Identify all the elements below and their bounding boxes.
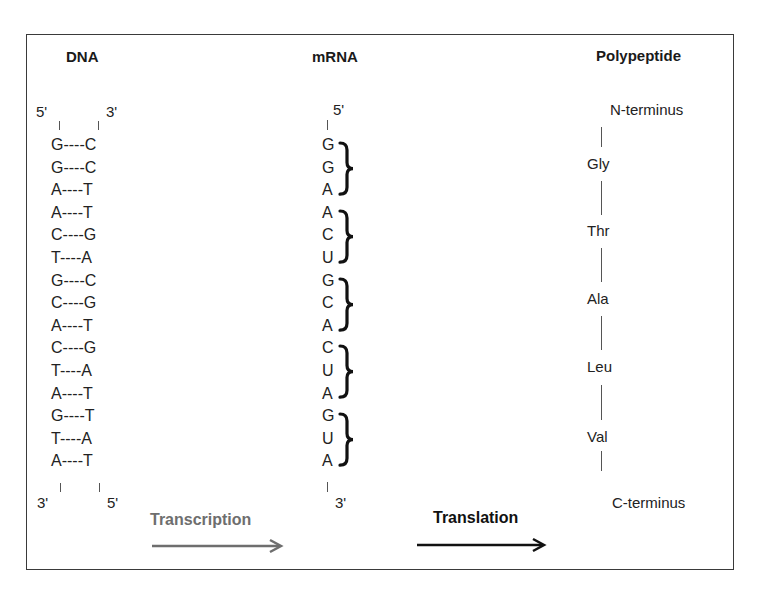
mrna-base: C — [322, 227, 334, 243]
transcription-arrow-icon — [150, 538, 286, 554]
transcription-label: Transcription — [150, 511, 251, 529]
dna-bottom-left-tick — [60, 483, 61, 492]
amino-acid-residue: Gly — [587, 155, 610, 172]
mrna-top-tick — [327, 120, 328, 130]
dna-base-pair: C----G — [51, 227, 96, 243]
peptide-bond-line — [601, 181, 602, 215]
peptide-bond-line — [601, 127, 602, 147]
amino-acid-residue: Ala — [587, 290, 609, 307]
dna-base-pair: A----T — [51, 182, 93, 198]
mrna-base: G — [322, 137, 334, 153]
codon-brace-icon — [338, 411, 358, 468]
peptide-bond-line — [601, 385, 602, 420]
translation-arrow-icon — [415, 537, 551, 553]
dna-base-pair: T----A — [51, 431, 92, 447]
dna-top-left-tick — [59, 121, 60, 130]
dna-bottom-right-tick — [99, 483, 100, 492]
translation-label: Translation — [433, 509, 518, 527]
amino-acid-residue: Leu — [587, 358, 612, 375]
mrna-header: mRNA — [312, 48, 358, 65]
amino-acid-residue: Val — [587, 428, 608, 445]
dna-base-pair: G----C — [51, 160, 96, 176]
mrna-3prime-end: 3' — [335, 494, 346, 511]
dna-header: DNA — [66, 48, 99, 65]
mrna-base: U — [322, 431, 334, 447]
dna-top-right-end: 3' — [106, 103, 117, 120]
n-terminus-label: N-terminus — [610, 101, 683, 118]
codon-brace-icon — [338, 276, 358, 333]
codon-brace-icon — [338, 140, 358, 197]
dna-bottom-left-end: 3' — [37, 494, 48, 511]
dna-base-pair: G----C — [51, 137, 96, 153]
mrna-base: C — [322, 295, 334, 311]
mrna-base: A — [322, 318, 333, 334]
mrna-base: C — [322, 340, 334, 356]
mrna-base: U — [322, 363, 334, 379]
mrna-bottom-tick — [327, 482, 328, 492]
mrna-base: A — [322, 453, 333, 469]
mrna-base: A — [322, 205, 333, 221]
mrna-base: G — [322, 160, 334, 176]
mrna-base: G — [322, 273, 334, 289]
mrna-base: G — [322, 408, 334, 424]
dna-base-pair: T----A — [51, 250, 92, 266]
dna-base-pair: A----T — [51, 453, 93, 469]
dna-bottom-right-end: 5' — [107, 494, 118, 511]
dna-base-pair: A----T — [51, 205, 93, 221]
polypeptide-header: Polypeptide — [596, 47, 681, 64]
amino-acid-residue: Thr — [587, 222, 610, 239]
dna-base-pair: C----G — [51, 340, 96, 356]
dna-base-pair: A----T — [51, 386, 93, 402]
codon-brace-icon — [338, 343, 358, 400]
dna-base-pair: G----C — [51, 273, 96, 289]
dna-top-right-tick — [98, 121, 99, 130]
dna-top-left-end: 5' — [36, 103, 47, 120]
peptide-bond-line — [601, 451, 602, 471]
dna-base-pair: C----G — [51, 295, 96, 311]
dna-base-pair: T----A — [51, 363, 92, 379]
dna-base-pair: G----T — [51, 408, 95, 424]
codon-brace-icon — [338, 208, 358, 265]
mrna-base: U — [322, 250, 334, 266]
mrna-base: A — [322, 182, 333, 198]
mrna-5prime-end: 5' — [333, 101, 344, 118]
peptide-bond-line — [601, 248, 602, 282]
mrna-base: A — [322, 386, 333, 402]
c-terminus-label: C-terminus — [612, 494, 685, 511]
dna-base-pair: A----T — [51, 318, 93, 334]
peptide-bond-line — [601, 316, 602, 350]
